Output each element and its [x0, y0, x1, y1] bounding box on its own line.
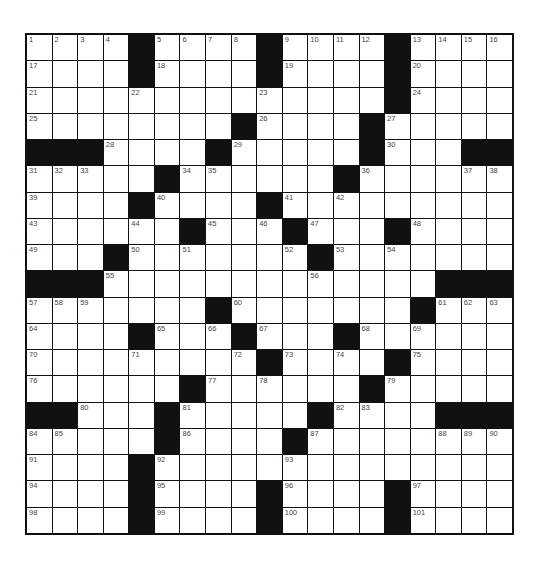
- grid-cell[interactable]: [53, 114, 78, 139]
- grid-cell[interactable]: 96: [283, 481, 308, 506]
- grid-cell[interactable]: 75: [411, 350, 436, 375]
- grid-cell[interactable]: 37: [462, 166, 487, 191]
- grid-cell[interactable]: [411, 114, 436, 139]
- grid-cell[interactable]: 83: [360, 403, 385, 428]
- grid-cell[interactable]: 5: [155, 35, 180, 60]
- grid-cell[interactable]: 21: [27, 88, 52, 113]
- grid-cell[interactable]: [206, 271, 231, 296]
- grid-cell[interactable]: [78, 455, 103, 480]
- grid-cell[interactable]: [53, 193, 78, 218]
- grid-cell[interactable]: [180, 140, 205, 165]
- grid-cell[interactable]: 14: [436, 35, 461, 60]
- grid-cell[interactable]: 13: [411, 35, 436, 60]
- grid-cell[interactable]: 6: [180, 35, 205, 60]
- grid-cell[interactable]: [180, 61, 205, 86]
- grid-cell[interactable]: 73: [283, 350, 308, 375]
- grid-cell[interactable]: [334, 481, 359, 506]
- grid-cell[interactable]: [155, 219, 180, 244]
- grid-cell[interactable]: [104, 508, 129, 533]
- grid-cell[interactable]: [308, 114, 333, 139]
- grid-cell[interactable]: [283, 271, 308, 296]
- grid-cell[interactable]: [78, 508, 103, 533]
- grid-cell[interactable]: [436, 455, 461, 480]
- grid-cell[interactable]: [308, 61, 333, 86]
- grid-cell[interactable]: [487, 88, 512, 113]
- grid-cell[interactable]: [462, 376, 487, 401]
- grid-cell[interactable]: [436, 219, 461, 244]
- grid-cell[interactable]: 22: [129, 88, 154, 113]
- grid-cell[interactable]: [283, 166, 308, 191]
- grid-cell[interactable]: [104, 324, 129, 349]
- grid-cell[interactable]: 23: [257, 88, 282, 113]
- grid-cell[interactable]: [487, 455, 512, 480]
- grid-cell[interactable]: [53, 88, 78, 113]
- grid-cell[interactable]: 31: [27, 166, 52, 191]
- grid-cell[interactable]: [487, 508, 512, 533]
- grid-cell[interactable]: 63: [487, 298, 512, 323]
- grid-cell[interactable]: [129, 298, 154, 323]
- grid-cell[interactable]: 90: [487, 429, 512, 454]
- grid-cell[interactable]: 49: [27, 245, 52, 270]
- grid-cell[interactable]: [155, 88, 180, 113]
- grid-cell[interactable]: 17: [27, 61, 52, 86]
- grid-cell[interactable]: [385, 166, 410, 191]
- grid-cell[interactable]: 47: [308, 219, 333, 244]
- grid-cell[interactable]: [283, 324, 308, 349]
- grid-cell[interactable]: [206, 114, 231, 139]
- grid-cell[interactable]: [436, 245, 461, 270]
- grid-cell[interactable]: [104, 455, 129, 480]
- grid-cell[interactable]: 53: [334, 245, 359, 270]
- grid-cell[interactable]: [129, 429, 154, 454]
- grid-cell[interactable]: [360, 481, 385, 506]
- grid-cell[interactable]: [206, 350, 231, 375]
- grid-cell[interactable]: [487, 350, 512, 375]
- grid-cell[interactable]: [360, 61, 385, 86]
- grid-cell[interactable]: 101: [411, 508, 436, 533]
- grid-cell[interactable]: [487, 245, 512, 270]
- grid-cell[interactable]: 60: [232, 298, 257, 323]
- grid-cell[interactable]: [436, 140, 461, 165]
- grid-cell[interactable]: 67: [257, 324, 282, 349]
- grid-cell[interactable]: [360, 508, 385, 533]
- grid-cell[interactable]: [180, 114, 205, 139]
- grid-cell[interactable]: [155, 271, 180, 296]
- grid-cell[interactable]: [53, 481, 78, 506]
- grid-cell[interactable]: [206, 193, 231, 218]
- grid-cell[interactable]: [232, 455, 257, 480]
- grid-cell[interactable]: [232, 376, 257, 401]
- grid-cell[interactable]: [257, 271, 282, 296]
- grid-cell[interactable]: 29: [232, 140, 257, 165]
- grid-cell[interactable]: [462, 219, 487, 244]
- grid-cell[interactable]: [206, 429, 231, 454]
- grid-cell[interactable]: [78, 114, 103, 139]
- grid-cell[interactable]: [155, 350, 180, 375]
- grid-cell[interactable]: [462, 508, 487, 533]
- grid-cell[interactable]: 27: [385, 114, 410, 139]
- grid-cell[interactable]: 35: [206, 166, 231, 191]
- grid-cell[interactable]: [78, 350, 103, 375]
- grid-cell[interactable]: 42: [334, 193, 359, 218]
- grid-cell[interactable]: [462, 324, 487, 349]
- grid-cell[interactable]: [308, 88, 333, 113]
- grid-cell[interactable]: [487, 324, 512, 349]
- grid-cell[interactable]: [104, 403, 129, 428]
- grid-cell[interactable]: [257, 455, 282, 480]
- grid-cell[interactable]: [360, 219, 385, 244]
- grid-cell[interactable]: [385, 193, 410, 218]
- grid-cell[interactable]: 68: [360, 324, 385, 349]
- grid-cell[interactable]: 52: [283, 245, 308, 270]
- grid-cell[interactable]: 46: [257, 219, 282, 244]
- grid-cell[interactable]: [360, 245, 385, 270]
- grid-cell[interactable]: 33: [78, 166, 103, 191]
- grid-cell[interactable]: [257, 403, 282, 428]
- grid-cell[interactable]: 28: [104, 140, 129, 165]
- grid-cell[interactable]: [53, 324, 78, 349]
- grid-cell[interactable]: [334, 429, 359, 454]
- grid-cell[interactable]: [334, 376, 359, 401]
- grid-cell[interactable]: [334, 61, 359, 86]
- grid-cell[interactable]: [53, 245, 78, 270]
- grid-cell[interactable]: [360, 88, 385, 113]
- grid-cell[interactable]: [308, 350, 333, 375]
- grid-cell[interactable]: 84: [27, 429, 52, 454]
- grid-cell[interactable]: [334, 114, 359, 139]
